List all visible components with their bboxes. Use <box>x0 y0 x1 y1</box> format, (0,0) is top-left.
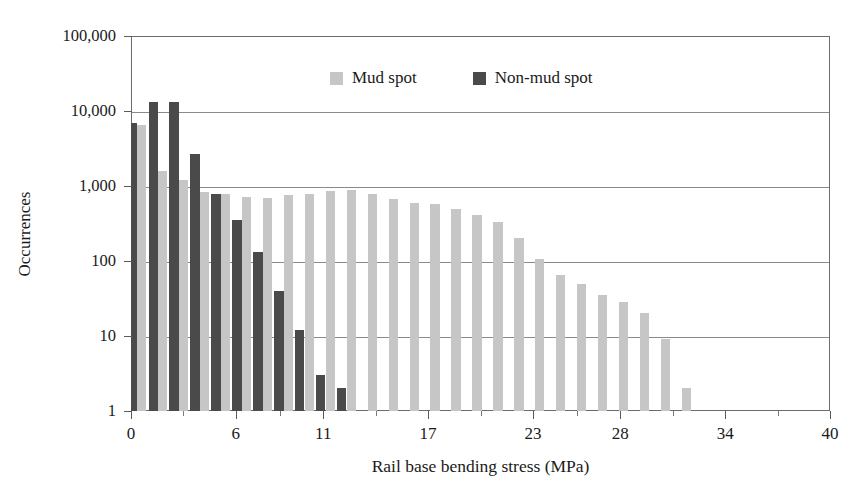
y-tick-mark <box>124 111 132 112</box>
bar-mud <box>284 195 293 411</box>
y-tick-mark <box>124 186 132 187</box>
bar-nonmud <box>274 291 283 411</box>
bar-mud <box>326 191 335 411</box>
bar-mud <box>619 302 628 411</box>
y-tick-label: 1,000 <box>79 178 116 195</box>
x-tick-mark <box>620 411 621 419</box>
bar-mud <box>493 222 502 411</box>
x-tick-mark <box>131 411 132 419</box>
chart-figure: 100,00010,0001,000100101 Occurrences 061… <box>0 0 865 503</box>
bar-mud <box>242 197 251 411</box>
x-tick-label: 34 <box>717 424 734 444</box>
x-tick-minor <box>183 411 184 416</box>
bar-mud <box>263 198 272 411</box>
x-axis-title: Rail base bending stress (MPa) <box>131 456 830 477</box>
y-tick-label: 100,000 <box>62 28 116 45</box>
y-axis-title: Occurrences <box>15 134 35 334</box>
legend-entry-nonmud[interactable]: Non-mud spot <box>473 68 593 88</box>
x-tick-minor <box>376 411 377 416</box>
y-tick-mark <box>124 336 132 337</box>
bar-nonmud <box>211 194 220 411</box>
bar-nonmud <box>232 220 241 411</box>
x-tick-label: 6 <box>232 424 241 444</box>
bar-mud <box>179 180 188 411</box>
bar-mud <box>451 209 460 411</box>
bar-mud <box>535 259 544 411</box>
legend-swatch-nonmud-icon <box>473 72 486 85</box>
legend-entry-mud[interactable]: Mud spot <box>330 68 417 88</box>
x-tick-mark <box>725 411 726 419</box>
bar-mud <box>598 295 607 411</box>
x-tick-mark <box>533 411 534 419</box>
x-tick-label: 11 <box>315 424 331 444</box>
bar-mud <box>682 388 691 411</box>
bar-nonmud <box>253 252 262 411</box>
x-tick-minor <box>481 411 482 416</box>
x-tick-label: 0 <box>127 424 136 444</box>
bar-mud <box>472 215 481 411</box>
y-tick-mark <box>124 411 132 412</box>
bar-mud <box>368 194 377 411</box>
y-tick-mark <box>124 36 132 37</box>
x-tick-label: 17 <box>420 424 437 444</box>
bar-nonmud <box>169 102 178 411</box>
bar-mud <box>661 339 670 411</box>
legend-label: Mud spot <box>352 68 417 88</box>
bar-mud <box>514 238 523 411</box>
x-tick-mark <box>323 411 324 419</box>
bar-mud <box>430 204 439 411</box>
bar-mud <box>410 203 419 411</box>
x-tick-minor <box>778 411 779 416</box>
bar-mud <box>137 125 146 411</box>
x-tick-label: 40 <box>822 424 839 444</box>
y-tick-label: 1 <box>108 403 116 420</box>
x-tick-minor <box>577 411 578 416</box>
y-tick-label: 100 <box>91 253 116 270</box>
bar-mud <box>158 171 167 411</box>
bar-nonmud <box>131 123 137 411</box>
y-tick-label: 10 <box>100 328 117 345</box>
legend-swatch-mud-icon <box>330 72 343 85</box>
x-tick-minor <box>673 411 674 416</box>
bar-mud <box>347 190 356 411</box>
x-tick-mark <box>236 411 237 419</box>
x-tick-label: 28 <box>612 424 629 444</box>
x-tick-minor <box>280 411 281 416</box>
bar-mud <box>640 313 649 411</box>
bar-nonmud <box>337 388 346 411</box>
bar-mud <box>305 194 314 411</box>
bar-mud <box>221 194 230 411</box>
bar-nonmud <box>149 102 158 411</box>
bar-mud <box>389 199 398 411</box>
bar-mud <box>200 192 209 411</box>
y-tick-label: 10,000 <box>71 103 116 120</box>
bar-nonmud <box>190 154 199 411</box>
legend-label: Non-mud spot <box>495 68 593 88</box>
x-tick-mark <box>830 411 831 419</box>
x-tick-label: 23 <box>524 424 541 444</box>
bar-mud <box>556 275 565 411</box>
bar-nonmud <box>295 330 304 411</box>
bars-layer <box>131 36 830 411</box>
chart-legend: Mud spotNon-mud spot <box>330 68 592 88</box>
bar-nonmud <box>316 375 325 411</box>
y-tick-mark <box>124 261 132 262</box>
bar-mud <box>577 284 586 411</box>
x-tick-mark <box>428 411 429 419</box>
